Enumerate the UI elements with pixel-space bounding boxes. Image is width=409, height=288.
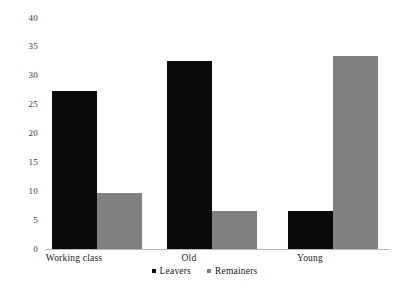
bar-leavers-old	[167, 61, 212, 249]
category-label-old: Old	[129, 252, 249, 264]
y-tick-label: 40	[2, 14, 38, 23]
x-axis-line	[45, 249, 390, 250]
category-label-working-class: Working class	[14, 252, 134, 264]
legend-item-remainers: Remainers	[207, 266, 257, 276]
bar-remainers-young	[333, 56, 378, 249]
y-tick-label: 20	[2, 129, 38, 138]
y-tick-label: 5	[2, 216, 38, 225]
y-tick-label: 30	[2, 71, 38, 80]
square-marker-icon	[207, 269, 211, 273]
y-tick-label: 25	[2, 100, 38, 109]
plot-area	[45, 14, 390, 249]
legend-label-remainers: Remainers	[215, 266, 257, 276]
y-axis: 40 35 30 25 20 15 10 5 0	[0, 0, 45, 288]
bar-chart: 40 35 30 25 20 15 10 5 0 Working class O…	[0, 0, 409, 288]
y-tick-label: 10	[2, 187, 38, 196]
chart-legend: Leavers Remainers	[0, 266, 409, 276]
category-label-young: Young	[250, 252, 370, 264]
y-tick-label: 35	[2, 42, 38, 51]
bar-leavers-working-class	[52, 91, 97, 249]
legend-item-leavers: Leavers	[152, 266, 191, 276]
y-tick-label: 15	[2, 158, 38, 167]
square-marker-icon	[152, 269, 156, 273]
bar-remainers-old	[212, 211, 257, 249]
bar-remainers-working-class	[97, 193, 142, 249]
bar-leavers-young	[288, 211, 333, 249]
legend-label-leavers: Leavers	[160, 266, 191, 276]
